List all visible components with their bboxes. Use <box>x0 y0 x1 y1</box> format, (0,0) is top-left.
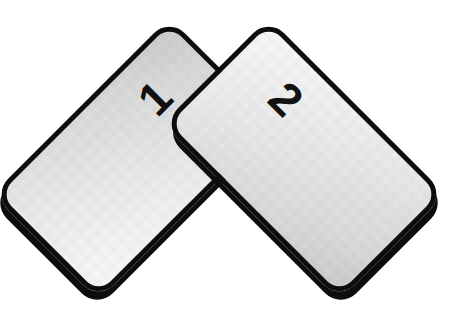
card-scene: 1 2 <box>0 0 470 325</box>
card-two-number: 2 <box>261 74 312 125</box>
